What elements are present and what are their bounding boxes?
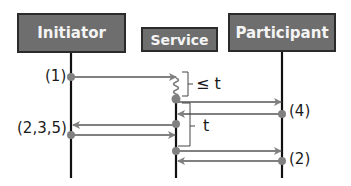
interval-bracket: [178, 103, 195, 146]
delay-bracket-label: ≤ t: [196, 76, 221, 92]
delay-bracket: [182, 72, 193, 96]
step-label-2-3-5: (2,3,5): [17, 121, 67, 136]
message-dot: [278, 157, 286, 165]
message-dot: [67, 131, 75, 139]
actor-initiator: Initiator: [17, 13, 126, 53]
sequence-diagram: Initiator Service Participant (1) (2,3,5…: [0, 0, 351, 186]
step-label-1: (1): [45, 69, 66, 84]
delay-wave: [174, 78, 179, 97]
step-label-4: (4): [289, 104, 310, 119]
interval-bracket-label: t: [203, 118, 209, 134]
actor-initiator-label: Initiator: [37, 24, 106, 42]
actor-participant-label: Participant: [235, 24, 328, 42]
step-label-2: (2): [289, 152, 310, 167]
message-dot: [278, 110, 286, 118]
actor-participant: Participant: [228, 13, 336, 52]
actor-service: Service: [141, 27, 218, 52]
actor-service-label: Service: [150, 32, 208, 48]
message-dot: [67, 73, 75, 81]
